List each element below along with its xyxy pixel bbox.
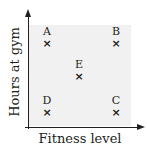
y-axis-line [28,14,29,129]
x-marker-icon: × [42,107,51,118]
point-label: B [112,26,120,37]
point-label: A [43,26,51,37]
point-label: D [43,95,52,106]
point-label: C [112,95,120,106]
y-axis-label: Hours at gym [8,27,21,117]
x-axis-label: Fitness level [39,131,122,146]
x-marker-icon: × [42,38,51,49]
y-axis-arrow-icon [25,9,31,17]
scatter-chart: Hours at gym Fitness level A × B × C × D… [0,0,147,151]
x-axis-arrow-icon [137,124,145,130]
x-axis-line [25,127,139,128]
x-marker-icon: × [111,38,120,49]
point-label: E [75,59,83,70]
x-marker-icon: × [111,107,120,118]
x-marker-icon: × [74,71,83,82]
